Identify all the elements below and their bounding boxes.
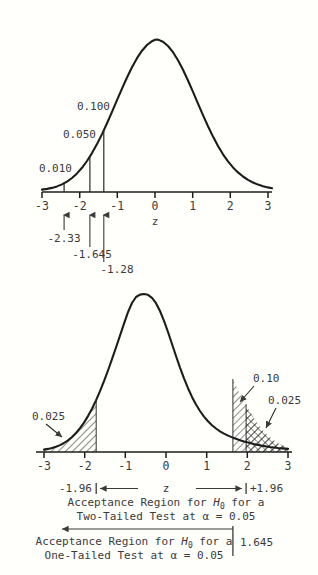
bound-label-plus-1-96: +1.96 bbox=[250, 482, 283, 495]
area-label-top-0-100: 0.100 bbox=[77, 100, 110, 113]
bottom-chart: -3 -2 -1 0 1 2 3 0.025 0.10 0.025 | +1.9… bbox=[32, 294, 301, 562]
xtick-label-top-2: -1 bbox=[110, 199, 124, 213]
bound-label-one-tailed-1-645: 1.645 bbox=[240, 536, 273, 549]
xtick-label-bottom-1: -2 bbox=[78, 459, 92, 473]
statistics-figure: -3 -2 -1 0 1 2 3 z 0.100 0.050 0.010 -2.… bbox=[0, 0, 318, 575]
area-label-right-0-10: 0.10 bbox=[253, 372, 280, 385]
area-label-left-0-025: 0.025 bbox=[32, 410, 65, 423]
shaded-region-left-tail bbox=[44, 400, 96, 452]
xtick-label-top-4: 1 bbox=[189, 199, 196, 213]
xtick-label-bottom-4: 1 bbox=[203, 459, 210, 473]
area-label-right-0-025: 0.025 bbox=[268, 394, 301, 407]
caption-one-tailed-line1: Acceptance Region for H0 for a bbox=[36, 535, 233, 550]
xtick-label-top-5: 2 bbox=[227, 199, 234, 213]
xtick-label-bottom-2: -1 bbox=[118, 459, 132, 473]
xtick-label-bottom-0: -3 bbox=[37, 459, 51, 473]
zvalue-label-minus-2-33: -2.33 bbox=[47, 232, 80, 245]
leader-line-right-0-10 bbox=[240, 386, 254, 402]
axis-label-z-top: z bbox=[152, 215, 159, 228]
zvalue-label-minus-1-28: -1.28 bbox=[100, 263, 133, 276]
xtick-label-bottom-6: 3 bbox=[285, 459, 292, 473]
xtick-label-top-6: 3 bbox=[265, 199, 272, 213]
x-axis-ticks-top bbox=[42, 192, 268, 198]
zvalue-label-minus-1-645: -1.645 bbox=[72, 248, 112, 261]
leader-line-left-0-025 bbox=[46, 424, 62, 437]
xtick-label-top-1: -2 bbox=[73, 199, 87, 213]
top-chart: -3 -2 -1 0 1 2 3 z 0.100 0.050 0.010 -2.… bbox=[35, 40, 272, 276]
xtick-label-bottom-3: 0 bbox=[163, 459, 170, 473]
axis-label-z-bottom: z bbox=[163, 482, 170, 495]
caption-two-tailed-line2: Two-Tailed Test at α = 0.05 bbox=[77, 510, 256, 523]
area-label-top-0-050: 0.050 bbox=[63, 128, 96, 141]
area-label-top-0-010: 0.010 bbox=[39, 162, 72, 175]
xtick-label-bottom-5: 2 bbox=[244, 459, 251, 473]
caption-two-tailed-line1: Acceptance Region for H0 for a bbox=[68, 496, 265, 511]
shaded-region-right-crosshatch bbox=[246, 404, 288, 452]
xtick-label-top-0: -3 bbox=[35, 199, 49, 213]
x-axis-ticks-bottom bbox=[44, 452, 288, 458]
caption-one-tailed-line2: One-Tailed Test at α = 0.05 bbox=[45, 549, 224, 562]
normal-curve-top bbox=[42, 40, 272, 190]
bound-label-minus-1-96: -1.96 bbox=[59, 482, 92, 495]
xtick-label-top-3: 0 bbox=[152, 199, 159, 213]
leader-line-right-0-025 bbox=[266, 408, 276, 428]
